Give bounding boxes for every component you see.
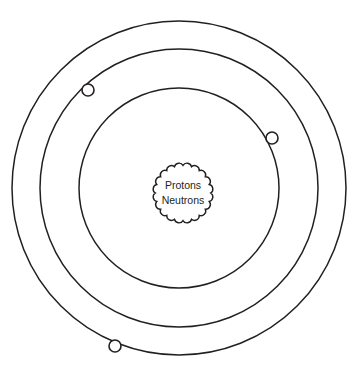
atom-diagram-canvas: Protons Neutrons — [0, 0, 357, 373]
nucleus-label-neutrons: Neutrons — [162, 194, 205, 206]
atom-diagram: Protons Neutrons — [0, 0, 357, 373]
nucleus-label-protons: Protons — [165, 179, 201, 191]
nucleus-group: Protons Neutrons — [153, 163, 213, 223]
electron-upper-left — [82, 84, 94, 96]
electron-bottom-left — [109, 340, 121, 352]
electron-right — [266, 132, 278, 144]
